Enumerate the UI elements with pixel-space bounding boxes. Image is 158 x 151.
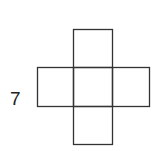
square-right [113, 68, 150, 107]
square-bottom [74, 107, 113, 145]
square-left [38, 68, 74, 107]
square-top [74, 30, 113, 68]
square-center [74, 68, 113, 107]
cross-net-diagram [0, 0, 158, 151]
